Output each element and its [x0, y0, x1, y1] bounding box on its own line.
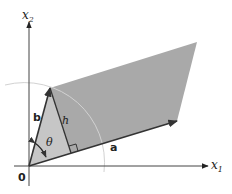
x2-axis-label: x2 — [22, 8, 34, 24]
theta-label: θ — [46, 136, 53, 149]
vector-b-label: b — [33, 111, 41, 124]
x1-axis-label: x1 — [211, 158, 223, 174]
origin-label: 0 — [18, 171, 26, 184]
parallelogram-diagram: x2 x1 0 b a h θ — [0, 0, 232, 194]
vector-a-label: a — [110, 141, 117, 154]
height-label: h — [62, 114, 69, 127]
